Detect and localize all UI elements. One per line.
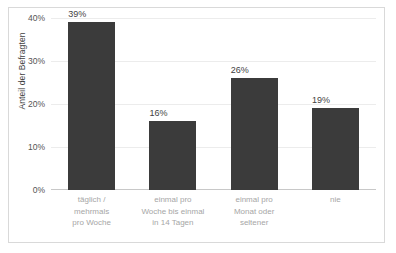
x-category-label-3: nie — [295, 194, 376, 229]
x-category-label-1: einmal pro Woche bis einmal in 14 Tagen — [132, 194, 213, 229]
y-tick-label-40: 40% — [28, 13, 45, 23]
x-category-label-0-line-0: täglich / — [53, 194, 130, 206]
x-category-label-2-line-1: Monat oder — [216, 206, 293, 218]
plot-area: 40% 30% 20% 10% 0% 39% 16% 26% — [51, 18, 376, 190]
bar-slot-2: 26% — [214, 18, 295, 190]
y-tick-label-30: 30% — [28, 56, 45, 66]
y-tick-label-0: 0% — [33, 185, 45, 195]
x-category-label-2-line-2: seltener — [216, 217, 293, 229]
bar-value-label-1: 16% — [149, 108, 167, 118]
x-axis-category-labels: täglich / mehrmals pro Woche einmal pro … — [51, 194, 376, 229]
bar-taeglich-mehrmals-pro-woche[interactable]: 39% — [68, 22, 115, 190]
x-category-label-0-line-2: pro Woche — [53, 217, 130, 229]
x-category-label-1-line-1: Woche bis einmal — [134, 206, 211, 218]
bar-nie[interactable]: 19% — [312, 108, 359, 190]
bar-value-label-2: 26% — [231, 65, 249, 75]
bar-series: 39% 16% 26% 19% — [51, 18, 376, 190]
bar-slot-3: 19% — [295, 18, 376, 190]
x-category-label-2-line-0: einmal pro — [216, 194, 293, 206]
x-category-label-2: einmal pro Monat oder seltener — [214, 194, 295, 229]
y-axis-title: Anteil der Befragten — [17, 11, 27, 131]
bar-einmal-pro-monat-oder-seltener[interactable]: 26% — [231, 78, 278, 190]
y-tick-label-20: 20% — [28, 99, 45, 109]
x-category-label-1-line-0: einmal pro — [134, 194, 211, 206]
bar-slot-0: 39% — [51, 18, 132, 190]
x-category-label-1-line-2: in 14 Tagen — [134, 217, 211, 229]
y-tick-label-10: 10% — [28, 142, 45, 152]
x-category-label-0-line-1: mehrmals — [53, 206, 130, 218]
bar-einmal-pro-woche-bis-einmal-in-14-tagen[interactable]: 16% — [149, 121, 196, 190]
bar-value-label-0: 39% — [68, 9, 86, 19]
bar-slot-1: 16% — [132, 18, 213, 190]
x-category-label-3-line-0: nie — [297, 194, 374, 206]
chart-frame: Anteil der Befragten 40% 30% 20% 10% 0% … — [8, 7, 385, 243]
bar-value-label-3: 19% — [312, 95, 330, 105]
x-category-label-0: täglich / mehrmals pro Woche — [51, 194, 132, 229]
